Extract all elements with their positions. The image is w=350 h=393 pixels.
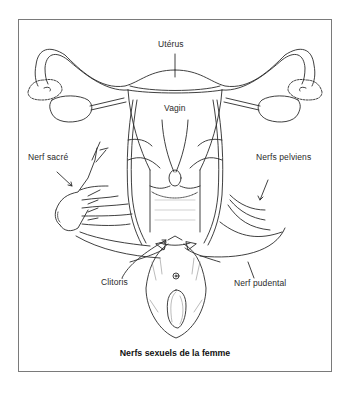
female-sexual-nerves-illustration bbox=[0, 0, 350, 393]
label-pudendal-nerve: Nerf pudental bbox=[234, 278, 286, 288]
ovary-right bbox=[224, 96, 300, 122]
vulva-shape bbox=[146, 242, 206, 338]
ovary-left bbox=[50, 96, 126, 122]
sacral-nerve-pointer bbox=[57, 172, 72, 186]
label-sacral-nerve: Nerf sacré bbox=[28, 152, 68, 162]
label-vagina: Vagin bbox=[164, 103, 186, 113]
label-pelvic-nerves: Nerfs pelviens bbox=[256, 152, 311, 162]
pelvic-nerve-trunks bbox=[127, 100, 223, 245]
label-clitoris: Clitoris bbox=[101, 277, 128, 287]
figure-caption: Nerfs sexuels de la femme bbox=[0, 348, 350, 358]
fimbriae-right bbox=[288, 79, 322, 100]
uterus-shape bbox=[35, 49, 315, 93]
label-uterus: Utérus bbox=[158, 39, 184, 49]
fimbriae-left bbox=[28, 79, 62, 100]
pelvic-nerves-right bbox=[200, 180, 285, 257]
